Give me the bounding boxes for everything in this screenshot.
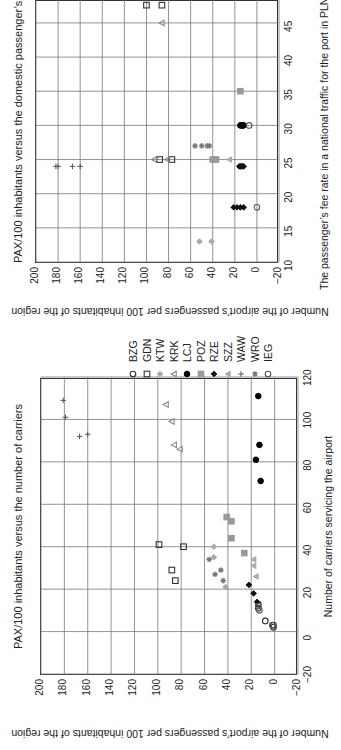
- data-point-ktw: [197, 239, 203, 245]
- data-point-ktw: [211, 544, 217, 550]
- chart-title: PAX/100 inhabitants versus the number of…: [12, 378, 24, 675]
- data-point-waw: [77, 434, 83, 440]
- data-point-gdn: [173, 578, 179, 584]
- data-point-wro: [207, 143, 213, 149]
- diamond-filled-marker-icon: [208, 368, 220, 380]
- x-tick-label: 35: [283, 89, 294, 100]
- legend: BZGGDNKTWKRKLCJPOZRZESZZWAWWROIEG: [127, 320, 277, 380]
- x-tick-label: −20: [302, 666, 313, 683]
- x-tick-label: 80: [302, 460, 313, 471]
- data-point-szz: [253, 574, 258, 580]
- x-tick-label: 30: [283, 123, 294, 134]
- y-tick-label: 160: [81, 679, 92, 703]
- legend-label: POZ: [195, 340, 207, 362]
- data-point-waw: [60, 398, 66, 404]
- y-tick-label: −20: [291, 679, 302, 703]
- scatter-plot-carriers: [41, 377, 298, 674]
- x-tick-label: 10: [283, 260, 294, 271]
- legend-item-poz: POZ: [195, 340, 207, 380]
- x-tick-label: 120: [302, 369, 313, 386]
- y-tick-label: 60: [198, 679, 209, 703]
- y-tick-label: 80: [162, 267, 173, 291]
- legend-item-gdn: GDN: [141, 339, 153, 380]
- triangle-filled-marker-icon: [222, 368, 234, 380]
- data-point-ktw: [209, 239, 215, 245]
- circle-filled-marker-icon: [181, 368, 193, 380]
- legend-item-ktw: KTW: [154, 339, 166, 380]
- data-point-wro: [212, 571, 218, 577]
- legend-item-lcj: LCJ: [181, 343, 193, 380]
- legend-label: GDN: [141, 339, 153, 362]
- y-axis-label: Number of the airport’s passengers per 1…: [5, 728, 335, 740]
- x-tick-label: 45: [283, 21, 294, 32]
- triangle-open-marker-icon: [168, 368, 180, 380]
- legend-label: WRO: [249, 336, 261, 362]
- data-point-poz: [241, 550, 247, 556]
- circle-open-marker-icon: [262, 368, 274, 380]
- y-tick-label: 200: [34, 679, 45, 703]
- circle-open-marker-icon: [127, 368, 139, 380]
- x-axis-label: Number of carriers servicing the airport: [322, 378, 334, 675]
- x-tick-label: 20: [283, 192, 294, 203]
- x-tick-label: 25: [283, 157, 294, 168]
- y-tick-label: 80: [174, 679, 185, 703]
- data-point-bzg: [262, 618, 268, 624]
- square-open-marker-icon: [141, 368, 153, 380]
- y-tick-label: 20: [244, 679, 255, 703]
- x-axis-label: The passenger’s fee rate in a national t…: [318, 0, 330, 290]
- legend-label: SZZ: [222, 342, 234, 362]
- x-tick-label: 0: [302, 635, 313, 641]
- data-point-waw: [70, 164, 76, 170]
- data-point-krk: [163, 402, 168, 408]
- data-point-wro: [192, 143, 198, 149]
- legend-item-ieg: IEG: [262, 344, 274, 380]
- y-tick-label: 120: [117, 267, 128, 291]
- y-tick-label: 0: [250, 267, 261, 291]
- data-point-szz: [226, 157, 231, 163]
- y-tick-label: 200: [29, 267, 40, 291]
- legend-label: KTW: [154, 339, 166, 362]
- y-tick-label: 0: [268, 679, 279, 703]
- legend-label: BZG: [127, 340, 139, 362]
- data-point-poz: [213, 157, 219, 163]
- chart-pax-vs-carriers: PAX/100 inhabitants versus the number of…: [0, 370, 341, 750]
- data-point-gdn: [159, 2, 165, 8]
- data-point-krk: [171, 442, 176, 448]
- y-tick-label: 160: [73, 267, 84, 291]
- y-tick-label: 60: [184, 267, 195, 291]
- y-tick-label: 140: [104, 679, 115, 703]
- legend-item-szz: SZZ: [222, 342, 234, 380]
- y-tick-label: 140: [95, 267, 106, 291]
- scatter-plot-fee: [36, 0, 279, 262]
- x-tick-label: 60: [302, 502, 313, 513]
- legend-label: WAW: [235, 336, 247, 362]
- y-tick-label: 180: [57, 679, 68, 703]
- data-point-wro: [199, 143, 205, 149]
- legend-label: LCJ: [181, 343, 193, 362]
- legend-item-waw: WAW: [235, 336, 247, 380]
- legend-label: KRK: [168, 340, 180, 362]
- data-point-lcj: [257, 442, 263, 448]
- square-filled-marker-icon: [195, 368, 207, 380]
- data-point-lcj: [253, 457, 259, 463]
- figure-page: PAX/100 inhabitants versus the number of…: [0, 0, 341, 750]
- y-tick-label: −20: [272, 267, 283, 291]
- star-marker-icon: [249, 368, 261, 380]
- x-tick-label: 20: [302, 587, 313, 598]
- legend-item-rze: RZE: [208, 341, 220, 380]
- y-tick-label: 40: [221, 679, 232, 703]
- x-tick-label: 40: [302, 545, 313, 556]
- data-point-lcj: [258, 478, 264, 484]
- plus-marker-icon: [235, 368, 247, 380]
- data-point-poz: [229, 518, 235, 524]
- plot-area: [35, 0, 278, 263]
- legend-label: RZE: [208, 341, 220, 362]
- data-point-waw: [85, 431, 91, 437]
- y-tick-label: 40: [206, 267, 217, 291]
- data-point-lcj: [255, 393, 261, 399]
- data-point-wro: [218, 567, 224, 573]
- chart-title: PAX/100 inhabitants versus the domestic …: [12, 0, 24, 263]
- x-tick-label: 15: [283, 226, 294, 237]
- legend-item-krk: KRK: [168, 340, 180, 380]
- data-point-lcj: [241, 123, 247, 129]
